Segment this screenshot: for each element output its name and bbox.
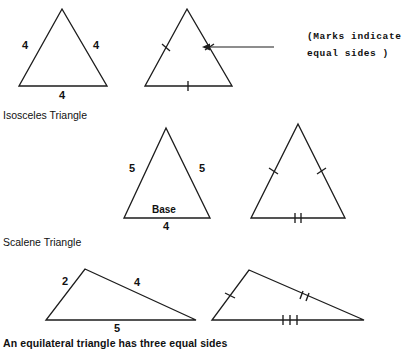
side-label-t3-right: 5 <box>199 163 205 174</box>
footer-sentence: An equilateral triangle has three equal … <box>3 338 228 349</box>
base-word-label: Base <box>152 205 176 215</box>
annotation-line-2: equal sides ) <box>307 46 389 61</box>
section-label-scalene: Scalene Triangle <box>3 237 81 248</box>
side-label-t5-right: 4 <box>134 277 140 288</box>
side-label-t1-right: 4 <box>93 40 99 51</box>
tick-long-side-2 <box>306 293 309 301</box>
side-label-t5-base: 5 <box>114 323 120 334</box>
side-label-t3-base: 4 <box>163 221 169 232</box>
side-label-t5-left: 2 <box>62 276 68 287</box>
tick-left-leg <box>162 44 170 51</box>
section-label-isosceles: Isosceles Triangle <box>3 110 87 121</box>
side-label-t3-left: 5 <box>129 163 135 174</box>
triangle-isosceles-ticked <box>251 124 345 218</box>
triangle-scalene-ticked <box>212 270 364 320</box>
side-label-t1-base: 4 <box>59 90 65 101</box>
triangle-scalene-labeled <box>46 269 196 320</box>
tick-right-leg <box>317 168 326 174</box>
annotation-line-1: (Marks indicate <box>307 29 402 44</box>
side-label-t1-left: 4 <box>22 40 28 51</box>
tick-short-side <box>225 293 235 298</box>
